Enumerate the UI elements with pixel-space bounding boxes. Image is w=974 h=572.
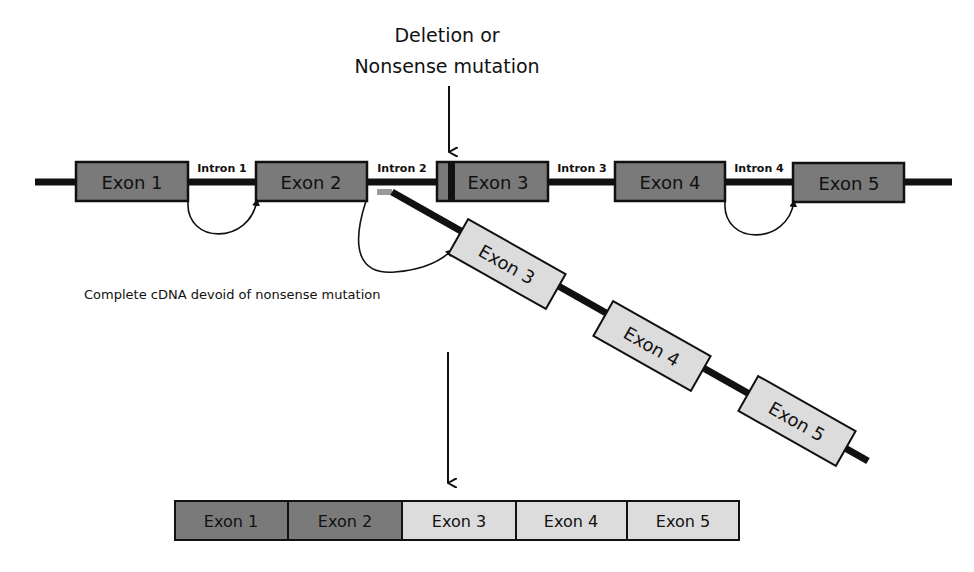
splicing-diagram: Deletion or Nonsense mutation Intron 1 I…	[0, 0, 974, 572]
genomic-exon-5: Exon 5	[793, 163, 904, 202]
genomic-exon-4-label: Exon 4	[639, 172, 700, 193]
cdna-exon-3: Exon 3	[448, 219, 565, 309]
genomic-exon-1: Exon 1	[76, 162, 188, 201]
mrna-exon-2-label: Exon 2	[318, 512, 372, 531]
mutation-marker	[448, 162, 455, 201]
intron-3-label: Intron 3	[557, 162, 606, 175]
genomic-exon-2-label: Exon 2	[280, 172, 341, 193]
intron-2-label: Intron 2	[377, 162, 426, 175]
intron-1-label: Intron 1	[197, 162, 246, 175]
genomic-exon-4: Exon 4	[615, 162, 725, 201]
mrna-exon-5-label: Exon 5	[656, 512, 710, 531]
mutation-label-line2: Nonsense mutation	[354, 55, 539, 77]
mrna-exon-3-label: Exon 3	[432, 512, 486, 531]
genomic-exon-1-label: Exon 1	[101, 172, 162, 193]
mrna-exon-1-label: Exon 1	[204, 512, 258, 531]
splice-arc-2-icon	[359, 201, 452, 272]
genomic-exon-2: Exon 2	[256, 162, 367, 201]
cdna-exon-4: Exon 4	[593, 301, 710, 391]
splice-arc-1-icon	[188, 200, 257, 234]
genomic-exon-5-label: Exon 5	[818, 173, 879, 194]
cdna-note: Complete cDNA devoid of nonsense mutatio…	[84, 287, 380, 302]
genomic-exon-3-label: Exon 3	[467, 172, 528, 193]
mrna-bar: Exon 1 Exon 2 Exon 3 Exon 4 Exon 5	[175, 501, 739, 540]
cdna-exon-5: Exon 5	[738, 376, 855, 466]
primer-stub	[377, 189, 392, 195]
intron-4-label: Intron 4	[734, 162, 784, 175]
splice-arc-4-icon	[725, 201, 794, 235]
mrna-exon-4-label: Exon 4	[544, 512, 598, 531]
mutation-label-line1: Deletion or	[394, 24, 499, 46]
genomic-exon-3: Exon 3	[437, 162, 548, 201]
